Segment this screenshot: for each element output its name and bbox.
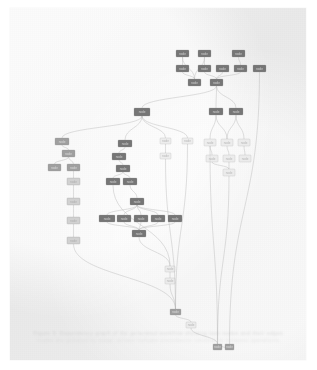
graph-node[interactable]: node	[130, 198, 144, 205]
graph-node-label: node	[235, 52, 242, 56]
caption-line-secondary: nodes are grouped by stage; arrows indic…	[28, 337, 290, 344]
graph-node[interactable]: node	[239, 155, 251, 162]
graph-node[interactable]: node	[232, 50, 245, 57]
graph-node[interactable]: node	[48, 164, 61, 171]
screenshot-root: nodenodenodenodenodenodenodenodenodenode…	[0, 0, 317, 370]
graph-node-label: node	[110, 180, 117, 184]
graph-node[interactable]: node	[67, 198, 80, 205]
graph-node[interactable]: node	[118, 140, 132, 147]
graph-edge	[125, 116, 142, 140]
graph-edge	[170, 284, 176, 309]
graph-node-label: node	[120, 167, 127, 171]
graph-node[interactable]: node	[165, 278, 175, 284]
graph-edge	[124, 222, 139, 230]
graph-node-label: node	[116, 155, 123, 159]
graph-edge	[218, 176, 230, 344]
graph-node[interactable]: node	[223, 169, 235, 176]
figure-blur-wrapper: nodenodenodenodenodenodenodenodenodenode…	[10, 8, 306, 360]
graph-node-label: node	[139, 110, 146, 114]
graph-node[interactable]: node	[206, 155, 218, 162]
graph-node[interactable]: node	[188, 79, 201, 86]
graph-node[interactable]: node	[151, 215, 165, 222]
graph-node[interactable]: node	[99, 215, 115, 222]
graph-node-label: node	[70, 166, 77, 170]
graph-node[interactable]: node	[182, 138, 193, 144]
graph-edge	[113, 172, 123, 178]
graph-node[interactable]: node	[176, 50, 189, 57]
graph-node-label: node	[256, 67, 263, 71]
graph-node-label: node	[104, 217, 111, 221]
graph-node-label: node	[167, 267, 174, 271]
graph-node[interactable]: node	[216, 65, 229, 72]
graph-edge	[236, 115, 244, 139]
graph-node[interactable]: node	[186, 322, 196, 328]
graph-node[interactable]: node	[198, 65, 211, 72]
graph-node-label: node	[162, 139, 169, 143]
graph-node[interactable]: node	[221, 139, 233, 146]
graph-node[interactable]: node	[67, 164, 80, 171]
graph-edge	[62, 116, 142, 138]
graph-svg: nodenodenodenodenodenodenodenodenodenode…	[10, 8, 306, 360]
graph-node-label: node	[191, 81, 198, 85]
graph-edge	[119, 160, 123, 165]
graph-node[interactable]: node	[168, 215, 182, 222]
graph-edge	[210, 146, 218, 344]
graph-node-label: node	[233, 110, 240, 114]
graph-node[interactable]: node	[134, 108, 150, 116]
graph-node-label: node	[179, 52, 186, 56]
graph-edge	[217, 86, 237, 108]
graph-node-label: node	[237, 67, 244, 71]
graph-node[interactable]: node	[67, 217, 80, 224]
graph-node[interactable]: node	[176, 65, 189, 72]
graph-node[interactable]: node	[223, 155, 235, 162]
graph-edge	[239, 57, 241, 65]
graph-node-label: node	[226, 157, 233, 161]
graph-node-label: node	[207, 141, 214, 145]
graph-node[interactable]: node	[198, 50, 211, 57]
graph-node[interactable]: node	[106, 178, 120, 185]
graph-node-label: node	[70, 239, 77, 243]
graph-node-label: node	[65, 152, 72, 156]
graph-edge	[176, 144, 188, 309]
graph-edge	[212, 162, 229, 169]
graph-node[interactable]: node	[165, 266, 175, 272]
caption-line-primary: Figure 9: Dependency graph of the genera…	[28, 330, 290, 337]
graph-node[interactable]: node	[132, 230, 146, 237]
graph-node[interactable]: node	[134, 215, 148, 222]
graph-node-label: node	[70, 219, 77, 223]
graph-node[interactable]: node	[253, 65, 266, 72]
graph-node[interactable]: node	[116, 165, 130, 172]
graph-node[interactable]: node	[210, 79, 223, 86]
document-page-panel: nodenodenodenodenodenodenodenodenodenode…	[10, 8, 306, 360]
graph-nodes-layer: nodenodenodenodenodenodenodenodenodenode…	[48, 50, 266, 350]
graph-node-label: node	[224, 141, 231, 145]
graph-edge	[205, 72, 217, 79]
graph-node-label: node	[127, 180, 134, 184]
graph-edge	[62, 145, 69, 150]
graph-node[interactable]: node	[160, 153, 171, 159]
graph-node-label: node	[122, 142, 129, 146]
graph-node[interactable]: node	[204, 139, 216, 146]
graph-node[interactable]: node	[67, 237, 80, 244]
graph-node[interactable]: node	[229, 108, 243, 115]
graph-node[interactable]: node	[62, 150, 75, 157]
graph-node[interactable]: node	[112, 153, 126, 160]
graph-node[interactable]: node	[209, 108, 223, 115]
graph-node[interactable]: node	[238, 139, 250, 146]
graph-node-label: node	[51, 166, 58, 170]
graph-node[interactable]: node	[170, 309, 181, 315]
graph-node-label: node	[121, 217, 128, 221]
graph-node[interactable]: node	[55, 138, 69, 145]
graph-node-label: node	[201, 52, 208, 56]
graph-node-label: node	[134, 200, 141, 204]
graph-edge	[210, 146, 212, 155]
graph-node[interactable]: node	[123, 178, 137, 185]
graph-node[interactable]: node	[117, 215, 131, 222]
graph-node[interactable]: node	[160, 138, 171, 144]
graph-node[interactable]: node	[67, 178, 80, 185]
graph-node-label: node	[209, 157, 216, 161]
graph-edge	[119, 147, 125, 153]
graph-edge	[69, 157, 74, 164]
graph-node[interactable]: node	[234, 65, 247, 72]
graph-node-label: node	[167, 279, 174, 283]
